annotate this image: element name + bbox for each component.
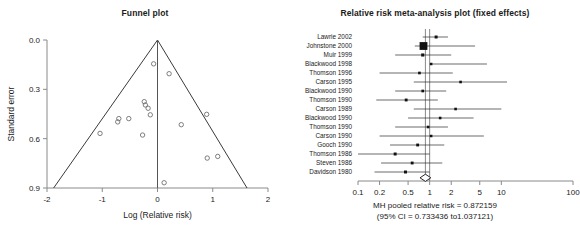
forest-plot-svg: 0.10.20.512510100Lawrie 2002Johnstone 20… bbox=[290, 0, 580, 232]
forest-effect-marker bbox=[420, 42, 428, 50]
funnel-x-tick-label: 1 bbox=[211, 195, 216, 204]
funnel-y-axis-label: Standard error bbox=[6, 86, 16, 141]
pooled-ci-text: (95% CI = 0.733436 to1.037121) bbox=[290, 211, 580, 222]
funnel-data-point bbox=[167, 72, 171, 76]
forest-study-label: Thomson 1990 bbox=[309, 123, 352, 130]
forest-x-tick-label: 5 bbox=[478, 188, 483, 197]
funnel-data-point bbox=[148, 113, 152, 117]
forest-study-label: Thomson 1986 bbox=[309, 150, 352, 157]
forest-pooled-diamond bbox=[420, 174, 431, 181]
forest-study-label: Gooch 1990 bbox=[317, 141, 352, 148]
forest-study-label: Blackwood 1998 bbox=[305, 60, 352, 67]
forest-x-tick-label: 0.5 bbox=[403, 188, 415, 197]
forest-study-label: Carson 1995 bbox=[315, 78, 352, 85]
funnel-data-point bbox=[205, 156, 209, 160]
forest-effect-marker bbox=[394, 153, 397, 156]
forest-study-label: Johnstone 2000 bbox=[307, 42, 353, 49]
funnel-data-point bbox=[140, 133, 144, 137]
forest-effect-marker bbox=[430, 135, 432, 137]
funnel-x-tick-label: -1 bbox=[99, 195, 107, 204]
forest-plot-title: Relative risk meta-analysis plot (fixed … bbox=[290, 8, 580, 18]
forest-study-label: Blackwood 1990 bbox=[305, 114, 352, 121]
forest-x-tick-label: 0.2 bbox=[374, 188, 386, 197]
funnel-data-point bbox=[179, 122, 183, 126]
forest-plot-panel: Relative risk meta-analysis plot (fixed … bbox=[290, 0, 580, 232]
forest-effect-marker bbox=[430, 63, 432, 65]
funnel-data-point bbox=[162, 181, 166, 185]
forest-study-label: Steven 1986 bbox=[316, 159, 352, 166]
forest-effect-marker bbox=[411, 162, 414, 165]
forest-effect-marker bbox=[421, 90, 424, 93]
forest-effect-marker bbox=[439, 117, 442, 120]
funnel-data-point bbox=[146, 106, 150, 110]
forest-x-tick-label: 100 bbox=[566, 188, 580, 197]
forest-x-tick-label: 2 bbox=[449, 188, 454, 197]
forest-x-tick-label: 10 bbox=[497, 188, 506, 197]
funnel-right-edge bbox=[158, 40, 248, 188]
funnel-x-tick-label: 2 bbox=[266, 195, 271, 204]
funnel-x-axis-label: Log (Relative risk) bbox=[123, 210, 192, 220]
funnel-y-tick-label: 0.3 bbox=[29, 85, 41, 94]
forest-effect-marker bbox=[418, 72, 421, 75]
funnel-plot-title: Funnel plot bbox=[0, 8, 290, 18]
funnel-x-tick-label: 0 bbox=[155, 195, 160, 204]
pooled-estimate-text: MH pooled relative risk = 0.872159 bbox=[290, 200, 580, 211]
funnel-y-tick-label: 0.9 bbox=[29, 184, 41, 193]
funnel-data-point bbox=[127, 116, 131, 120]
funnel-x-tick-label: -2 bbox=[43, 195, 51, 204]
funnel-plot-panel: Funnel plot -2-10120.00.30.60.9Log (Rela… bbox=[0, 0, 290, 232]
funnel-y-tick-label: 0.0 bbox=[29, 36, 41, 45]
forest-study-label: Lawrie 2002 bbox=[317, 33, 352, 40]
pooled-result-footer: MH pooled relative risk = 0.872159 (95% … bbox=[290, 200, 580, 222]
funnel-data-point bbox=[151, 62, 155, 66]
forest-effect-marker bbox=[454, 108, 457, 111]
forest-effect-marker bbox=[427, 126, 430, 129]
forest-effect-marker bbox=[421, 53, 424, 56]
forest-effect-marker bbox=[416, 144, 419, 147]
forest-study-label: Davidson 1980 bbox=[309, 168, 352, 175]
forest-study-label: Muir 1999 bbox=[324, 51, 353, 58]
funnel-data-point bbox=[216, 154, 220, 158]
funnel-plot-svg: -2-10120.00.30.60.9Log (Relative risk)St… bbox=[0, 0, 290, 232]
forest-effect-marker bbox=[405, 99, 408, 102]
forest-study-label: Thomson 1990 bbox=[309, 96, 352, 103]
forest-x-tick-label: 1 bbox=[427, 188, 432, 197]
forest-study-label: Thomson 1996 bbox=[309, 69, 352, 76]
forest-effect-marker bbox=[459, 81, 462, 84]
forest-effect-marker bbox=[435, 36, 438, 39]
meta-analysis-figure: Funnel plot -2-10120.00.30.60.9Log (Rela… bbox=[0, 0, 580, 232]
funnel-data-point bbox=[98, 131, 102, 135]
forest-study-label: Carson 1990 bbox=[315, 132, 352, 139]
forest-study-label: Blackwood 1990 bbox=[305, 87, 352, 94]
forest-study-label: Carson 1989 bbox=[315, 105, 352, 112]
funnel-data-point bbox=[204, 112, 208, 116]
forest-x-tick-label: 0.1 bbox=[352, 188, 364, 197]
funnel-y-tick-label: 0.6 bbox=[29, 135, 41, 144]
funnel-left-edge bbox=[54, 40, 158, 188]
forest-effect-marker bbox=[404, 171, 407, 174]
